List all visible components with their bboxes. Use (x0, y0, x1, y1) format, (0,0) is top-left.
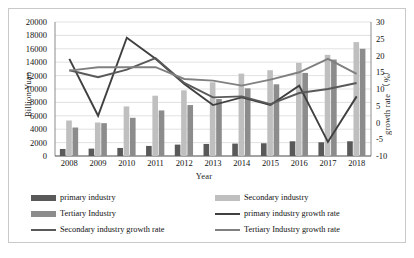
bar (232, 144, 238, 156)
legend-bar-swatch (31, 195, 56, 201)
bar (124, 106, 130, 156)
bar (290, 141, 296, 156)
legend-line-swatch (31, 229, 56, 231)
bar (274, 84, 280, 156)
bar (159, 110, 165, 156)
legend-item[interactable]: Tertiary Industry (31, 209, 116, 219)
bar (360, 49, 366, 156)
chart-canvas (9, 9, 407, 189)
legend-label: Tertiary Industry growth rate (244, 225, 340, 235)
legend-item[interactable]: primary industry (31, 193, 116, 203)
bar (152, 96, 158, 156)
bar (187, 105, 193, 156)
bar (117, 148, 123, 156)
bar (331, 60, 337, 156)
bar (175, 145, 181, 156)
bar (146, 146, 152, 156)
legend-item[interactable]: primary industry growth rate (215, 209, 340, 219)
chart-frame: Billion Yuan growth rate （%） Year 020004… (8, 8, 406, 243)
bar (66, 120, 72, 156)
legend-label: primary industry (60, 193, 116, 203)
bar (216, 99, 222, 156)
plot-area: Billion Yuan growth rate （%） Year 020004… (9, 9, 407, 189)
bar (204, 144, 210, 156)
bar (89, 149, 95, 156)
legend-label: Secondary industry (244, 193, 308, 203)
bar (267, 70, 273, 156)
legend-bar-swatch (31, 211, 56, 217)
bar (181, 90, 187, 156)
legend-item[interactable]: Secondary industry (215, 193, 308, 203)
legend-bar-swatch (215, 195, 240, 201)
legend-item[interactable]: Tertiary Industry growth rate (215, 225, 340, 235)
line-series (69, 59, 356, 86)
legend-label: Secondary industry growth rate (60, 225, 164, 235)
legend-line-swatch (215, 213, 240, 215)
bar (60, 149, 66, 156)
bar (296, 63, 302, 156)
bar (210, 82, 216, 156)
bar (130, 118, 136, 156)
chart-figure: Billion Yuan growth rate （%） Year 020004… (0, 0, 414, 258)
legend-item[interactable]: Secondary industry growth rate (31, 225, 164, 235)
bar (261, 143, 267, 156)
bar (302, 73, 308, 156)
bar (347, 141, 353, 156)
chart-legend: primary industrySecondary industryTertia… (9, 191, 407, 243)
legend-label: primary industry growth rate (244, 209, 340, 219)
legend-label: Tertiary Industry (60, 209, 116, 219)
bar (318, 142, 324, 156)
bar (73, 128, 79, 156)
bar (101, 123, 107, 156)
bar (95, 123, 101, 157)
legend-line-swatch (215, 229, 240, 231)
